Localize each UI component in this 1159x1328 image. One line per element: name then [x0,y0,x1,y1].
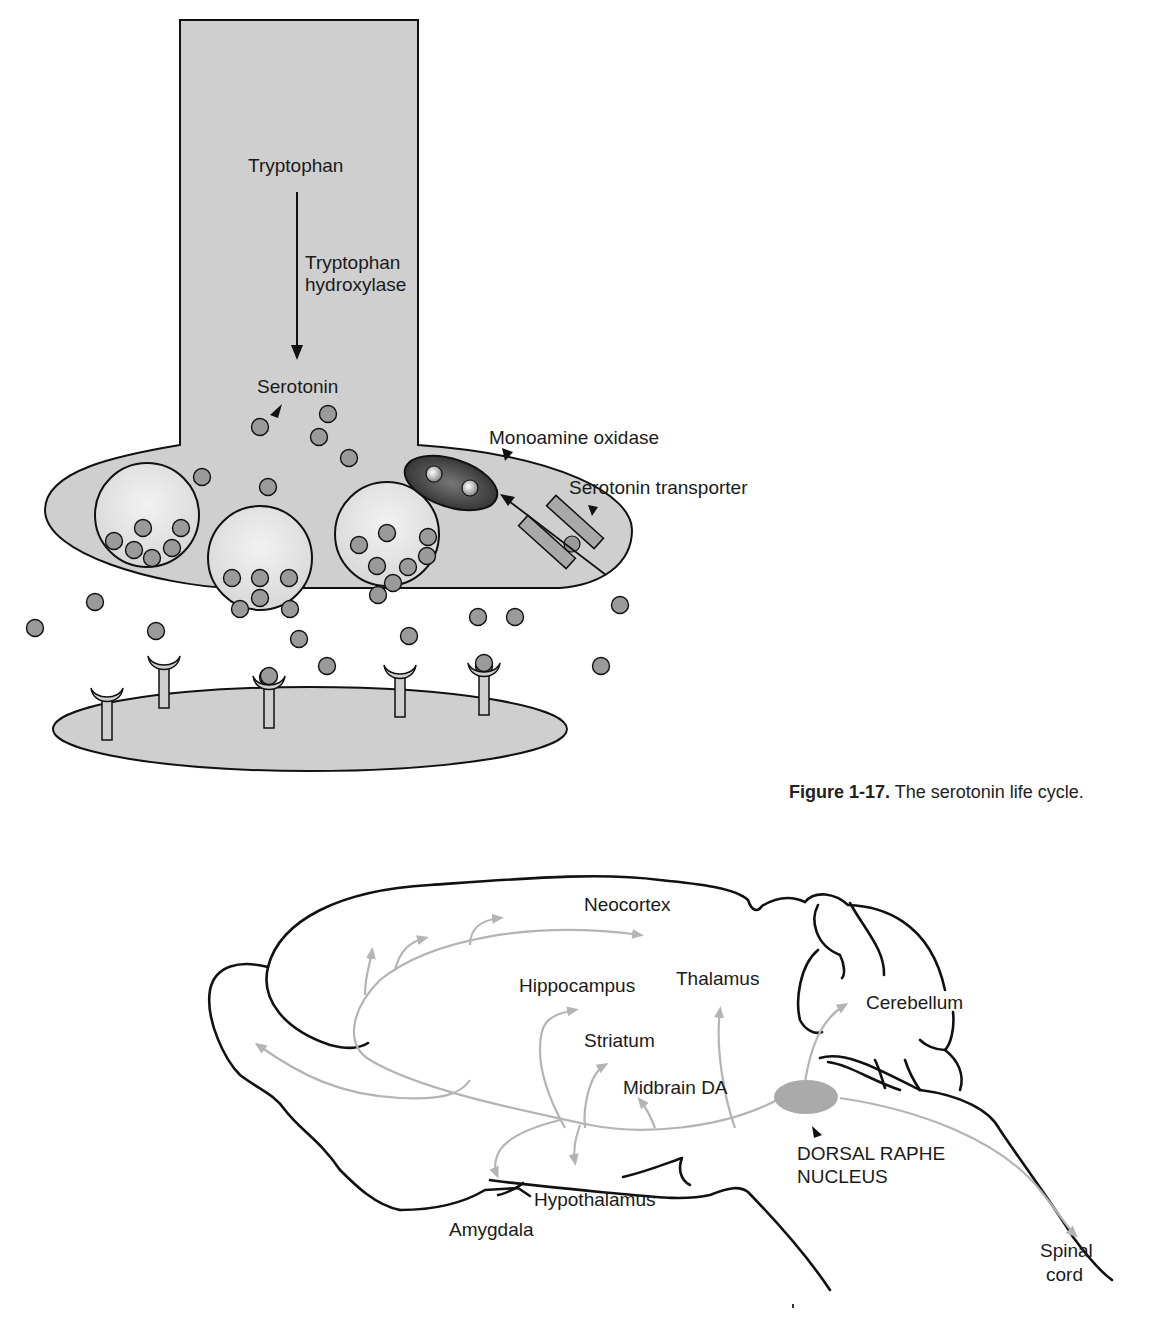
label-neocortex: Neocortex [584,894,671,916]
label-raphe-line2: NUCLEUS [797,1166,888,1188]
raphe-pointer-icon [812,1126,822,1138]
figure-page: Tryptophan Tryptophan hydroxylase Seroto… [0,0,1159,1328]
print-speck [792,1304,794,1308]
label-spinal-line1: Spinal [1040,1240,1093,1262]
label-striatum: Striatum [584,1030,655,1052]
label-raphe-line1: DORSAL RAPHE [797,1143,945,1165]
label-midbrain-da: Midbrain DA [623,1077,728,1099]
label-hippocampus: Hippocampus [519,975,635,997]
label-thalamus: Thalamus [676,968,759,990]
dorsal-raphe-nucleus [774,1080,838,1114]
label-cerebellum: Cerebellum [866,992,963,1014]
serotonin-pathways-brain-diagram [0,0,1159,1328]
label-amygdala: Amygdala [449,1219,534,1241]
label-spinal-line2: cord [1046,1264,1083,1286]
label-hypothalamus: Hypothalamus [534,1189,655,1211]
